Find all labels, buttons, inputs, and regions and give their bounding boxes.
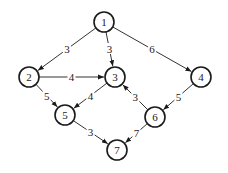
- edge-5-7: 3: [73, 121, 108, 144]
- node-4: 4: [191, 67, 211, 87]
- node-label: 7: [114, 144, 120, 156]
- edge-weight-label: 5: [44, 90, 50, 102]
- edge-weight-label: 3: [133, 91, 139, 103]
- node-7: 7: [107, 140, 127, 160]
- graph-canvas: 3364543537 1234567: [0, 0, 228, 173]
- node-label: 6: [152, 111, 158, 123]
- node-label: 2: [26, 71, 32, 83]
- edge-1-4: 6: [113, 27, 192, 72]
- edge-1-3: 3: [105, 32, 113, 66]
- node-label: 3: [112, 71, 118, 83]
- edge-6-7: 7: [125, 124, 147, 143]
- node-1: 1: [94, 12, 114, 32]
- edge-2-5: 5: [36, 84, 58, 107]
- edge-weight-label: 5: [176, 91, 182, 103]
- node-label: 4: [198, 71, 204, 83]
- edge-6-3: 3: [123, 85, 148, 110]
- node-5: 5: [55, 105, 75, 125]
- node-label: 5: [62, 109, 68, 121]
- node-label: 1: [101, 16, 107, 28]
- edge-weight-label: 7: [134, 127, 140, 139]
- edge-4-6: 5: [163, 84, 193, 110]
- edge-1-2: 3: [38, 28, 96, 71]
- nodes-layer: 1234567: [19, 12, 211, 160]
- edge-weight-label: 3: [64, 43, 70, 55]
- node-6: 6: [145, 107, 165, 127]
- edge-weight-label: 4: [69, 71, 75, 83]
- edge-weight-label: 4: [88, 90, 94, 102]
- edge-weight-label: 3: [107, 43, 113, 55]
- node-2: 2: [19, 67, 39, 87]
- edge-2-3: 4: [39, 71, 104, 83]
- edge-weight-label: 6: [149, 43, 155, 55]
- edge-weight-label: 3: [88, 126, 94, 138]
- edge-3-5: 4: [74, 83, 107, 108]
- node-3: 3: [105, 67, 125, 87]
